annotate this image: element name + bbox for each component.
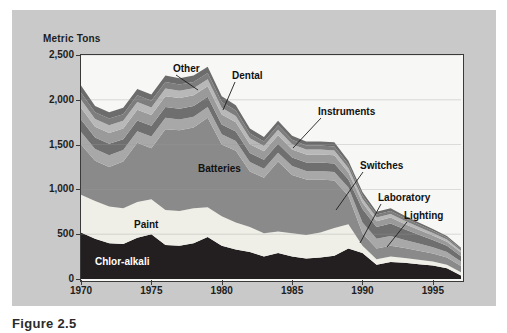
x-tick-label: 1980 — [199, 285, 245, 296]
x-tick-mark — [362, 280, 363, 285]
series-label-instruments: Instruments — [318, 106, 375, 117]
y-tick-label: 2,000 — [28, 94, 74, 105]
y-tick-mark — [76, 145, 81, 146]
x-tick-label: 1975 — [128, 285, 174, 296]
series-label-batteries: Batteries — [198, 163, 241, 174]
series-label-other: Other — [173, 63, 200, 74]
stacked-area-chart — [81, 55, 461, 279]
series-label-paint: Paint — [134, 219, 158, 230]
x-tick-mark — [81, 280, 82, 285]
y-tick-label: 0 — [28, 273, 74, 284]
x-tick-label: 1990 — [339, 285, 385, 296]
x-tick-mark — [433, 280, 434, 285]
x-tick-mark — [222, 280, 223, 285]
y-tick-mark — [76, 189, 81, 190]
y-axis-title: Metric Tons — [43, 33, 101, 44]
y-tick-mark — [76, 55, 81, 56]
series-label-switches: Switches — [360, 160, 403, 171]
y-tick-label: 1,500 — [28, 139, 74, 150]
x-tick-label: 1970 — [58, 285, 104, 296]
x-tick-label: 1995 — [410, 285, 456, 296]
series-label-dental: Dental — [232, 70, 263, 81]
series-label-chlor-alkali: Chlor-alkali — [95, 256, 149, 267]
y-tick-label: 1,000 — [28, 183, 74, 194]
plot-area — [80, 54, 464, 282]
series-label-lighting: Lighting — [404, 210, 443, 221]
y-tick-label: 500 — [28, 228, 74, 239]
y-tick-label: 2,500 — [28, 49, 74, 60]
x-tick-mark — [292, 280, 293, 285]
figure-root: Metric Tons 05001,0001,5002,0002,5001970… — [0, 0, 507, 333]
y-tick-mark — [76, 100, 81, 101]
y-tick-mark — [76, 234, 81, 235]
figure-caption: Figure 2.5 — [12, 316, 76, 331]
x-tick-label: 1985 — [269, 285, 315, 296]
x-tick-mark — [151, 280, 152, 285]
series-label-laboratory: Laboratory — [378, 192, 430, 203]
